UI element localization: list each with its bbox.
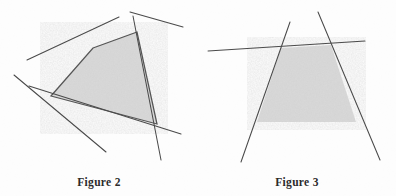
figure-3-drawing xyxy=(198,0,396,168)
figure-3-caption: Figure 3 xyxy=(198,176,396,188)
figure-2-drawing xyxy=(0,0,198,168)
figure-2-panel: Figure 2 xyxy=(0,0,198,196)
figure-3-polygon-grain xyxy=(257,45,356,122)
figure-3-shaded-region xyxy=(257,45,356,122)
figure-2-line-upper-right xyxy=(130,12,183,27)
figure-3-panel: Figure 3 xyxy=(198,0,396,196)
figure-2-caption: Figure 2 xyxy=(0,176,212,188)
